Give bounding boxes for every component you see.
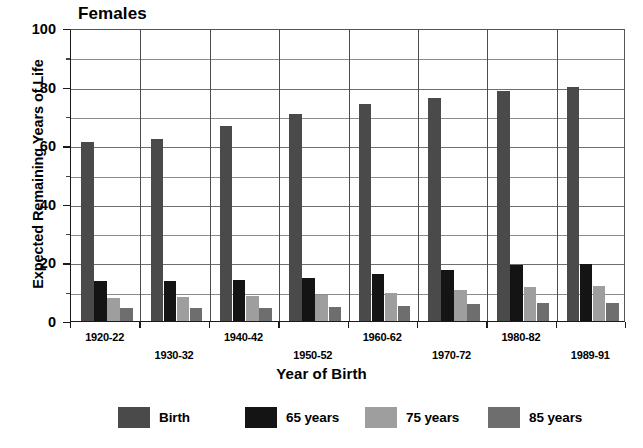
legend-label: 65 years <box>286 410 339 425</box>
bar-75-years-1980-82 <box>524 287 537 321</box>
bar-birth-1970-72 <box>428 98 441 321</box>
bar-65-years-1989-91 <box>580 264 593 321</box>
x-category-label-1950-52: 1950-52 <box>293 349 332 361</box>
bar-birth-1950-52 <box>289 114 302 321</box>
legend-label: 75 years <box>406 410 459 425</box>
bar-85-years-1989-91 <box>606 303 619 321</box>
legend-swatch-icon <box>245 407 277 428</box>
bar-85-years-1960-62 <box>398 306 411 321</box>
x-category-label-1930-32: 1930-32 <box>155 349 194 361</box>
bar-75-years-1970-72 <box>454 290 467 321</box>
bar-75-years-1960-62 <box>385 293 398 321</box>
plot-area <box>70 29 625 322</box>
y-tick-label-80: 80 <box>0 81 56 96</box>
legend-label: Birth <box>159 410 190 425</box>
legend-item-85-years[interactable]: 85 years <box>488 404 582 430</box>
legend-item-75-years[interactable]: 75 years <box>365 404 459 430</box>
bar-75-years-1920-22 <box>107 298 120 321</box>
bar-65-years-1960-62 <box>372 274 385 321</box>
y-tick-label-60: 60 <box>0 139 56 154</box>
x-tick <box>70 322 71 328</box>
bar-75-years-1930-32 <box>177 297 190 321</box>
legend-label: 85 years <box>529 410 582 425</box>
y-tick-label-0: 0 <box>0 315 56 330</box>
bar-85-years-1920-22 <box>120 308 133 321</box>
y-tick-label-20: 20 <box>0 256 56 271</box>
y-tick-60 <box>63 146 70 147</box>
bar-85-years-1940-42 <box>259 308 272 321</box>
bar-85-years-1930-32 <box>190 308 203 321</box>
x-tick <box>417 322 418 328</box>
bar-65-years-1970-72 <box>441 270 454 321</box>
bar-65-years-1920-22 <box>94 281 107 321</box>
x-category-label-1940-42: 1940-42 <box>224 331 263 343</box>
x-category-label-1970-72: 1970-72 <box>432 349 471 361</box>
y-tick-label-100: 100 <box>0 22 56 37</box>
x-tick <box>278 322 279 328</box>
legend-item-65-years[interactable]: 65 years <box>245 404 339 430</box>
x-axis-title: Year of Birth <box>0 365 643 382</box>
y-tick-100 <box>63 29 70 30</box>
bar-65-years-1980-82 <box>510 265 523 321</box>
bar-85-years-1950-52 <box>329 307 342 321</box>
bar-birth-1940-42 <box>220 126 233 321</box>
chart-title: Females <box>78 4 147 24</box>
x-tick <box>139 322 140 328</box>
x-tick <box>556 322 557 328</box>
y-tick-40 <box>63 205 70 206</box>
x-tick <box>348 322 349 328</box>
x-category-label-1989-91: 1989-91 <box>571 349 610 361</box>
bar-75-years-1950-52 <box>315 295 328 321</box>
bar-85-years-1980-82 <box>537 303 550 321</box>
y-axis-title: Expected Remaining Years of Life <box>27 14 49 334</box>
x-category-label-1960-62: 1960-62 <box>363 331 402 343</box>
y-tick-80 <box>63 88 70 89</box>
x-category-label-1920-22: 1920-22 <box>85 331 124 343</box>
bar-65-years-1950-52 <box>302 278 315 321</box>
chart-root: Females Expected Remaining Years of Life… <box>0 0 643 448</box>
bar-birth-1960-62 <box>359 104 372 321</box>
legend-item-birth[interactable]: Birth <box>118 404 190 430</box>
legend-swatch-icon <box>365 407 397 428</box>
legend-swatch-icon <box>488 407 520 428</box>
y-tick-label-40: 40 <box>0 198 56 213</box>
x-tick <box>625 322 626 328</box>
legend-swatch-icon <box>118 407 150 428</box>
x-tick <box>209 322 210 328</box>
bar-75-years-1989-91 <box>593 286 606 321</box>
bar-birth-1920-22 <box>81 142 94 321</box>
bar-birth-1930-32 <box>151 139 164 321</box>
chart-legend: Birth65 years75 years85 years <box>0 404 643 438</box>
bar-75-years-1940-42 <box>246 296 259 321</box>
bars-layer <box>71 30 624 321</box>
x-category-label-1980-82: 1980-82 <box>501 331 540 343</box>
x-tick <box>486 322 487 328</box>
bar-birth-1989-91 <box>567 87 580 321</box>
y-tick-0 <box>63 322 70 323</box>
bar-birth-1980-82 <box>497 91 510 321</box>
y-tick-20 <box>63 263 70 264</box>
bar-65-years-1930-32 <box>164 281 177 321</box>
bar-85-years-1970-72 <box>467 304 480 321</box>
bar-65-years-1940-42 <box>233 280 246 321</box>
